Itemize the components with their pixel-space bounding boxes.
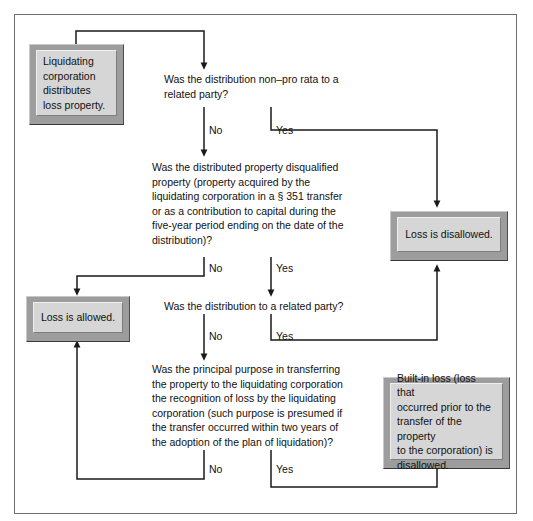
node-builtin-loss-box: Built-in loss (loss that occurred prior …: [383, 377, 510, 469]
node-q4-text: Was the principal purpose in transferrin…: [152, 362, 422, 450]
node-start-box: Liquidating corporation distributes loss…: [29, 44, 124, 125]
branch-label-q4-yes: Yes: [276, 463, 293, 475]
node-loss-allowed-label: Loss is allowed.: [34, 310, 122, 325]
branch-label-q3-no: No: [209, 330, 222, 342]
node-loss-allowed-box: Loss is allowed.: [26, 296, 130, 342]
builtin-loss-face: Built-in loss (loss that occurred prior …: [390, 383, 503, 460]
flowchart-canvas: Liquidating corporation distributes loss…: [0, 0, 533, 521]
node-loss-disallowed-box: Loss is disallowed.: [390, 211, 508, 261]
loss-allowed-face: Loss is allowed.: [33, 302, 123, 333]
branch-label-q2-yes: Yes: [276, 262, 293, 274]
node-q2-text: Was the distributed property disqualifie…: [152, 160, 422, 248]
branch-label-q1-no: No: [209, 124, 222, 136]
node-q1-text: Was the distribution non–pro rata to a r…: [164, 72, 419, 101]
branch-label-q1-yes: Yes: [276, 124, 293, 136]
node-q3-text: Was the distribution to a related party?: [164, 299, 424, 314]
branch-label-q4-no: No: [209, 463, 222, 475]
node-builtin-loss-label: Built-in loss (loss that occurred prior …: [391, 371, 502, 473]
branch-label-q2-no: No: [209, 262, 222, 274]
loss-disallowed-face: Loss is disallowed.: [397, 217, 501, 252]
branch-label-q3-yes: Yes: [276, 330, 293, 342]
node-loss-disallowed-label: Loss is disallowed.: [398, 227, 500, 242]
node-start-label: Liquidating corporation distributes loss…: [37, 54, 116, 112]
start-box-face: Liquidating corporation distributes loss…: [36, 50, 117, 116]
